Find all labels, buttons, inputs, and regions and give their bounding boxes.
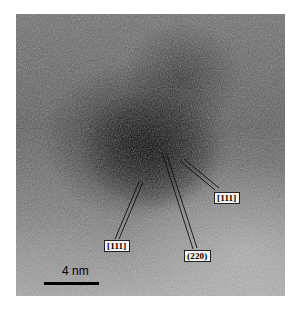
pointer-line-right-a [180, 161, 215, 190]
plane-label-111-right: [111] [214, 192, 240, 204]
scale-bar [44, 282, 99, 285]
plane-label-111-left: [111] [104, 240, 130, 252]
pointer-line-left-b [119, 182, 143, 239]
annotation-lines [0, 0, 299, 314]
scale-bar-label: 4 nm [62, 264, 89, 278]
plane-label-220: (220) [184, 250, 211, 262]
pointer-line-right-b [184, 159, 219, 188]
pointer-line-left-a [115, 182, 139, 239]
pointer-line-center-a [162, 152, 193, 249]
